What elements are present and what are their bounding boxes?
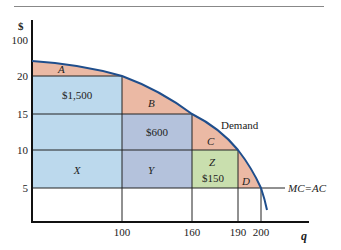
label-600: $600 — [146, 126, 169, 138]
label-1500: $1,500 — [62, 89, 93, 101]
region-a — [32, 61, 122, 76]
y-tick-20: 20 — [17, 70, 29, 82]
region-x — [32, 114, 122, 188]
x-tick-100: 100 — [114, 226, 131, 238]
y-tick-15: 15 — [17, 108, 29, 120]
region-y — [122, 150, 192, 188]
label-b: B — [148, 97, 155, 109]
x-axis-label: q — [301, 229, 307, 243]
y-tick-100: 100 — [12, 34, 29, 46]
y-tick-10: 10 — [17, 144, 29, 156]
label-c: C — [207, 135, 215, 147]
demand-chart: $ q 100 20 15 10 5 100 160 190 200 A $1,… — [0, 0, 341, 250]
label-z: Z — [209, 156, 216, 168]
label-demand: Demand — [221, 119, 259, 131]
x-tick-200: 200 — [253, 226, 270, 238]
label-a: A — [57, 63, 65, 75]
label-d: D — [241, 175, 250, 187]
label-150: $150 — [202, 172, 225, 184]
label-x: X — [73, 164, 82, 176]
region-b — [122, 76, 192, 114]
x-tick-190: 190 — [230, 226, 247, 238]
y-tick-5: 5 — [23, 182, 29, 194]
label-mc-ac: MC=AC — [287, 182, 327, 194]
x-tick-160: 160 — [184, 226, 201, 238]
y-axis-label: $ — [18, 20, 24, 32]
